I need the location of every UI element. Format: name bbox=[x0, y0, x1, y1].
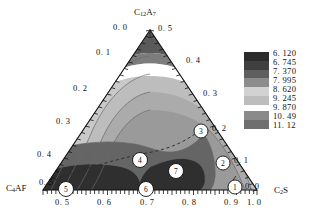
marker-2-label: 2 bbox=[221, 160, 225, 168]
top-vertex-label: C12A7 bbox=[134, 8, 156, 17]
top-right-tick-label: 0. 5 bbox=[158, 24, 172, 33]
right-axis-tick-0.3: 0. 3 bbox=[203, 89, 217, 98]
ternary-diagram-figure: C12A7 0. 0 0. 5 0. 1 0. 2 0. 3 0. 4 0. 5… bbox=[0, 0, 311, 224]
bottom-axis-tick-0.6: 0. 6 bbox=[97, 198, 111, 207]
right-vertex-label: C2S bbox=[274, 186, 288, 195]
bottom-axis-tick-0.5: 0. 5 bbox=[55, 198, 69, 207]
bottom-axis-tick-0.7: 0. 7 bbox=[140, 198, 154, 207]
left-axis-tick-0.3: 0. 3 bbox=[56, 117, 70, 126]
top-left-tick-label: 0. 0 bbox=[113, 23, 127, 32]
marker-4-label: 4 bbox=[138, 157, 142, 165]
left-axis-tick-0.1: 0. 1 bbox=[96, 48, 110, 57]
bottom-axis-tick-0.8: 0. 8 bbox=[182, 198, 196, 207]
right-axis-tick-0.2: 0. 2 bbox=[212, 124, 226, 133]
marker-7-label: 7 bbox=[174, 168, 178, 176]
left-axis-tick-0.5: 0. 5 bbox=[39, 178, 53, 187]
marker-1-label: 1 bbox=[233, 184, 237, 192]
marker-3-label: 3 bbox=[199, 128, 203, 136]
diagram-canvas bbox=[0, 0, 311, 224]
bottom-axis-tick-1.0: 1. 0 bbox=[247, 198, 261, 207]
legend-value-8: 11. 12 bbox=[273, 121, 296, 131]
left-vertex-label: C4AF bbox=[6, 184, 27, 193]
right-axis-tick-0.4: 0. 4 bbox=[186, 56, 200, 65]
right-axis-tick-0.1: 0. 1 bbox=[234, 156, 248, 165]
marker-5-label: 5 bbox=[64, 186, 68, 194]
legend-swatches bbox=[244, 52, 269, 129]
right-axis-tick-0.0: 0. 0 bbox=[245, 182, 259, 191]
bottom-axis-tick-0.9: 0. 9 bbox=[224, 198, 238, 207]
left-axis-tick-0.4: 0. 4 bbox=[37, 150, 51, 159]
marker-6-label: 6 bbox=[144, 186, 148, 194]
left-axis-tick-0.2: 0. 2 bbox=[73, 84, 87, 93]
